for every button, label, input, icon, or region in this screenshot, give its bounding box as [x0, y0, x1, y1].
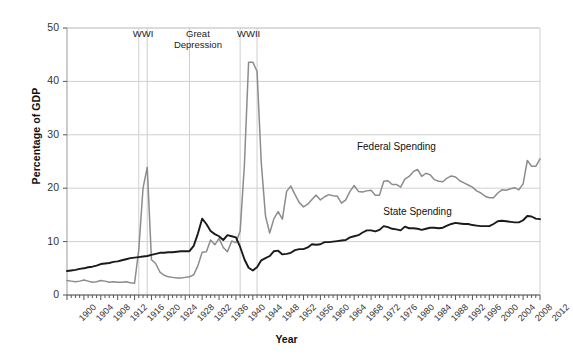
y-tick-label: 40 [33, 74, 59, 86]
y-tick-label: 50 [33, 21, 59, 33]
y-tick-label: 30 [33, 128, 59, 140]
series-label-state: State Spending [383, 206, 451, 217]
y-tick-label: 10 [33, 235, 59, 247]
y-tick-label: 20 [33, 181, 59, 193]
line-chart-plot [0, 0, 573, 356]
x-axis-title: Year [0, 333, 573, 345]
chart-container: Percentage of GDP Year 01020304050 19001… [0, 0, 573, 356]
series-label-federal: Federal Spending [357, 141, 436, 152]
y-tick-label: 0 [33, 288, 59, 300]
annotation-wwii: WWII [214, 28, 284, 39]
